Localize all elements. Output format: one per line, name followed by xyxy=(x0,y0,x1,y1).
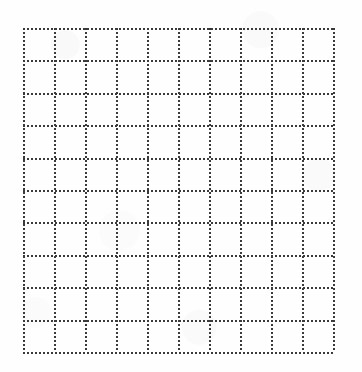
grid-line-vertical-2 xyxy=(85,28,87,352)
grid-line-vertical-10 xyxy=(333,28,335,352)
dotted-grid xyxy=(23,28,333,352)
grid-line-horizontal-10 xyxy=(23,352,333,354)
grid-line-vertical-3 xyxy=(116,28,118,352)
grid-line-vertical-6 xyxy=(209,28,211,352)
grid-line-vertical-4 xyxy=(147,28,149,352)
grid-line-vertical-9 xyxy=(302,28,304,352)
grid-line-vertical-7 xyxy=(240,28,242,352)
grid-line-vertical-8 xyxy=(271,28,273,352)
grid-line-vertical-5 xyxy=(178,28,180,352)
grid-line-vertical-1 xyxy=(54,28,56,352)
figure-canvas: Dotted grid A hand-drawn-looking square … xyxy=(0,0,362,372)
grid-line-vertical-0 xyxy=(23,28,25,352)
